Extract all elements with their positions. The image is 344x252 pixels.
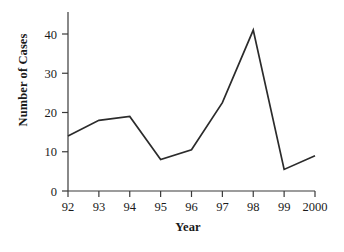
y-axis-ticks: 010203040 — [45, 28, 69, 199]
x-tick-label: 97 — [216, 200, 229, 214]
x-tick-label: 98 — [247, 200, 260, 214]
line-chart: Number of Cases Year 010203040 929394959… — [0, 0, 344, 252]
x-tick-label: 95 — [154, 200, 167, 214]
y-tick-label: 20 — [45, 106, 58, 120]
y-tick-label: 0 — [51, 185, 57, 199]
x-tick-label: 92 — [62, 200, 75, 214]
x-tick-label: 93 — [93, 200, 106, 214]
y-tick-label: 40 — [45, 28, 58, 42]
data-series-line — [68, 30, 315, 169]
x-axis-ticks: 92939495969798992000 — [62, 191, 328, 214]
x-tick-label: 94 — [124, 200, 137, 214]
x-tick-label: 96 — [185, 200, 198, 214]
x-tick-label: 99 — [278, 200, 291, 214]
x-tick-label: 2000 — [303, 200, 328, 214]
y-tick-label: 30 — [45, 67, 58, 81]
y-tick-label: 10 — [45, 145, 58, 159]
plot-area: 010203040 92939495969798992000 — [0, 0, 344, 252]
